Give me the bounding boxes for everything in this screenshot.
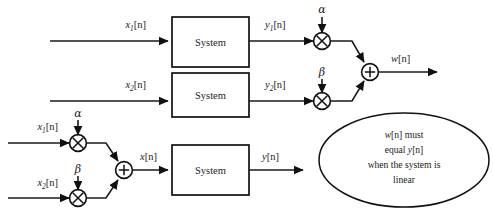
note-line-4: linear bbox=[393, 174, 416, 185]
path-mult-alpha-bottom-to-sum bbox=[86, 143, 118, 161]
label-x2-middle: x2[n] bbox=[124, 79, 146, 93]
block-diagram-canvas: x1[n] x2[n] y1[n] y2[n] w[n] x1[n] x2[n]… bbox=[0, 0, 494, 219]
label-system-middle: System bbox=[195, 90, 226, 101]
note-line-2: equal y[n] bbox=[385, 144, 424, 155]
label-y2: y2[n] bbox=[264, 79, 286, 93]
summer-bottom bbox=[116, 162, 133, 179]
multiplier-alpha-bottom bbox=[70, 135, 87, 152]
label-x1-top: x1[n] bbox=[124, 19, 146, 33]
label-beta-bottom: β bbox=[74, 163, 81, 176]
path-mult-beta-to-sum-top bbox=[330, 81, 364, 101]
note-line-3: when the system is bbox=[368, 159, 441, 170]
path-mult-alpha-to-sum-top bbox=[330, 41, 364, 62]
label-x2-bottom: x2[n] bbox=[36, 177, 58, 191]
label-x-sum: x[n] bbox=[139, 151, 157, 162]
label-y-output: y[n] bbox=[261, 151, 279, 162]
path-mult-beta-bottom-to-sum bbox=[86, 180, 118, 198]
label-beta-top: β bbox=[318, 66, 325, 79]
summer-top bbox=[362, 64, 379, 81]
note-line-1: w[n] must bbox=[385, 129, 424, 140]
label-y1: y1[n] bbox=[264, 19, 286, 33]
label-alpha-top: α bbox=[318, 3, 326, 16]
label-alpha-bottom: α bbox=[74, 107, 82, 120]
diagram-svg: x1[n] x2[n] y1[n] y2[n] w[n] x1[n] x2[n]… bbox=[0, 0, 494, 219]
label-x1-bottom: x1[n] bbox=[36, 121, 58, 135]
label-w-output: w[n] bbox=[391, 53, 410, 64]
multiplier-alpha-top bbox=[314, 33, 331, 50]
multiplier-beta-bottom bbox=[70, 190, 87, 207]
multiplier-beta-top bbox=[314, 93, 331, 110]
label-system-bottom: System bbox=[195, 165, 226, 176]
label-system-top: System bbox=[195, 37, 226, 48]
